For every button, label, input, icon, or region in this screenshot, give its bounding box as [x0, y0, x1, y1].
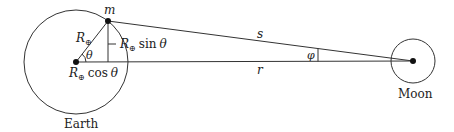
label-earth: Earth	[64, 117, 98, 131]
label-r-sin-theta: R⊕sinθ	[119, 37, 167, 53]
label-r-cos-theta: R⊕cosθ	[68, 66, 119, 82]
earth-center-dot	[73, 59, 79, 65]
moon-center-dot	[410, 58, 416, 64]
label-m: m	[104, 3, 115, 17]
label-phi: φ	[307, 49, 315, 62]
label-r: r	[257, 63, 264, 77]
earth-moon-diagram: m R⊕ θ R⊕sinθ R⊕cosθ s r φ Earth Moon	[0, 0, 454, 132]
label-radius: R⊕	[75, 31, 92, 47]
label-theta: θ	[86, 49, 93, 62]
line-r	[76, 61, 413, 62]
point-m-dot	[105, 18, 111, 24]
label-moon: Moon	[398, 87, 433, 101]
label-s: s	[257, 27, 263, 41]
